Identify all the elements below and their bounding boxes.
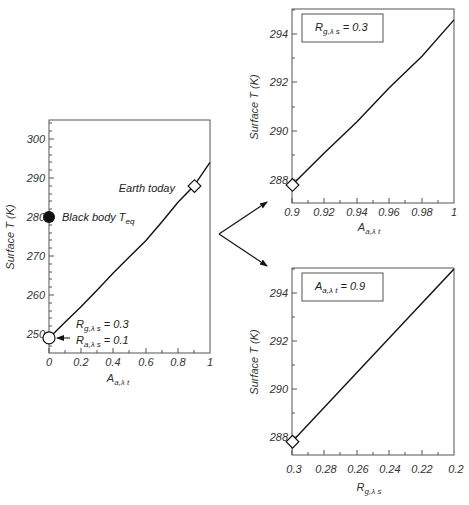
bottom-right-xtick-label: 0.28 (315, 463, 337, 475)
top-right-ytick-label: 294 (269, 28, 288, 40)
top-right-chart: 288 290 292 294 0.9 0.92 0.94 0.96 0.98 … (248, 9, 457, 236)
left-x-axis-label: Aa,λ t (106, 372, 130, 387)
top-right-xtick-label: 0.98 (411, 206, 433, 218)
left-y-tick-labels: 250 260 270 280 290 300 (26, 133, 46, 340)
left-ytick-label: 270 (26, 250, 46, 262)
top-right-y-ticks (292, 10, 297, 180)
bottom-right-xtick-label: 0.24 (379, 463, 400, 475)
bottom-right-x-ticks (292, 450, 438, 455)
top-right-x-axis-label: Aa,λ t (357, 221, 381, 236)
top-right-y-axis-label: Surface T (K) (248, 74, 260, 140)
bottom-right-xtick-label: 0.3 (286, 463, 302, 475)
bottom-right-ytick-label: 292 (269, 335, 288, 347)
top-right-ytick-label: 292 (269, 76, 288, 88)
left-xtick-label: 0.6 (138, 356, 154, 368)
left-chart: 250 260 270 280 290 300 0 0.2 0.4 0.6 0.… (4, 120, 213, 387)
bottom-right-x-axis-label: Rg,λ s (357, 481, 382, 496)
bottom-right-xtick-label: 0.22 (411, 463, 432, 475)
earth-today-label: Earth today (119, 182, 177, 194)
bottom-right-y-ticks (292, 269, 297, 437)
left-ytick-label: 280 (26, 211, 46, 223)
top-right-xtick-label: 0.94 (346, 206, 367, 218)
top-right-xtick-label: 0.9 (284, 206, 299, 218)
bottom-right-ytick-label: 288 (269, 431, 289, 443)
top-right-curve (292, 20, 454, 185)
top-right-y-tick-labels: 288 290 292 294 (269, 28, 289, 186)
connector-arrows (219, 202, 267, 266)
arrow-to-bottom-panel-icon (219, 234, 267, 266)
bottom-right-y-tick-labels: 288 290 292 294 (269, 287, 289, 443)
rg-label: Rg,λ s = 0.3 (76, 318, 130, 333)
left-x-ticks (49, 348, 194, 353)
top-right-x-ticks (292, 198, 438, 203)
bottom-right-ytick-label: 294 (269, 287, 288, 299)
top-right-ytick-label: 288 (269, 174, 289, 186)
black-body-label: Black body Teq (62, 211, 135, 226)
left-xtick-label: 1 (207, 356, 213, 368)
left-x-tick-labels: 0 0.2 0.4 0.6 0.8 1 (46, 356, 213, 368)
baseline-marker (43, 332, 55, 344)
top-right-ytick-label: 290 (269, 125, 289, 137)
left-ytick-label: 260 (26, 289, 46, 301)
figure-canvas: 250 260 270 280 290 300 0 0.2 0.4 0.6 0.… (0, 0, 469, 505)
bottom-right-xtick-label: 0.2 (448, 463, 463, 475)
bottom-right-chart: 288 290 292 294 0.3 0.28 0.26 0.24 0.22 … (248, 268, 464, 496)
left-chart-frame (49, 120, 210, 353)
left-ytick-label: 300 (27, 133, 46, 145)
top-right-xtick-label: 0.96 (378, 206, 400, 218)
ra-label: Ra,λ s = 0.1 (76, 334, 129, 349)
arrow-to-top-panel-icon (219, 202, 267, 234)
left-y-axis-label: Surface T (K) (4, 204, 16, 270)
left-xtick-label: 0.2 (73, 356, 88, 368)
left-xtick-label: 0.4 (105, 356, 120, 368)
top-right-xtick-label: 1 (451, 206, 457, 218)
left-y-ticks (49, 123, 54, 346)
top-right-xtick-label: 0.92 (313, 206, 334, 218)
black-body-marker (43, 211, 55, 223)
bottom-right-x-tick-labels: 0.3 0.28 0.26 0.24 0.22 0.2 (286, 463, 463, 475)
bottom-right-xtick-label: 0.26 (347, 463, 369, 475)
top-right-x-tick-labels: 0.9 0.92 0.94 0.96 0.98 1 (284, 206, 457, 218)
bottom-right-ytick-label: 290 (269, 383, 289, 395)
bottom-right-y-axis-label: Surface T (K) (248, 329, 260, 395)
left-xtick-label: 0.8 (170, 356, 186, 368)
left-xtick-label: 0 (46, 356, 53, 368)
left-ytick-label: 290 (26, 172, 46, 184)
